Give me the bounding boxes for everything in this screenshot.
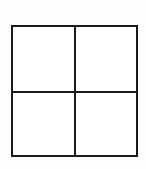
top-left-cell <box>13 27 75 91</box>
bottom-right-cell <box>75 91 137 155</box>
figure-canvas <box>0 0 146 169</box>
top-right-cell <box>75 27 137 91</box>
horizontal-center-divider <box>11 91 138 93</box>
bottom-left-cell <box>13 91 75 155</box>
